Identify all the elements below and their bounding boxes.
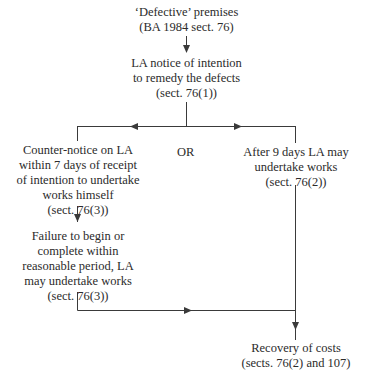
node-failure: Failure to begin or complete within reas… (7, 229, 149, 304)
node-text: within 7 days of receipt (2, 158, 154, 173)
node-text: undertake works (232, 160, 360, 175)
arrowhead-icon (292, 322, 299, 330)
node-text: of intention to undertake (2, 173, 154, 188)
node-text: (sect. 76(1)) (116, 86, 257, 101)
node-text: reasonable period, LA (7, 259, 149, 274)
node-text: may undertake works (7, 274, 149, 289)
node-text: (sect. 76(3)) (2, 203, 154, 218)
node-text: works himself (2, 188, 154, 203)
node-recovery-of-costs: Recovery of costs (sects. 76(2) and 107) (226, 341, 366, 371)
node-text: Failure to begin or (7, 229, 149, 244)
node-counter-notice: Counter-notice on LA within 7 days of re… (2, 143, 154, 218)
node-text: (sects. 76(2) and 107) (226, 356, 366, 371)
node-after-9-days: After 9 days LA may undertake works (sec… (232, 145, 360, 190)
node-text: (BA 1984 sect. 76) (126, 20, 247, 35)
node-text: LA notice of intention (116, 56, 257, 71)
node-defective-premises: ‘Defective’ premises (BA 1984 sect. 76) (126, 5, 247, 35)
node-text: Counter-notice on LA (2, 143, 154, 158)
node-text: to remedy the defects (116, 71, 257, 86)
node-la-notice: LA notice of intention to remedy the def… (116, 56, 257, 101)
arrowhead-left-icon (130, 123, 138, 130)
node-text: After 9 days LA may (232, 145, 360, 160)
arrowhead-icon (183, 45, 190, 53)
node-text: ‘Defective’ premises (126, 5, 247, 20)
node-text: complete within (7, 244, 149, 259)
node-text: (sect. 76(3)) (7, 289, 149, 304)
arrowhead-right-icon (234, 123, 242, 130)
node-text: (sect. 76(2)) (232, 175, 360, 190)
branch-or-label: OR (177, 145, 194, 160)
node-text: Recovery of costs (226, 341, 366, 356)
arrowhead-right-icon (184, 307, 192, 314)
